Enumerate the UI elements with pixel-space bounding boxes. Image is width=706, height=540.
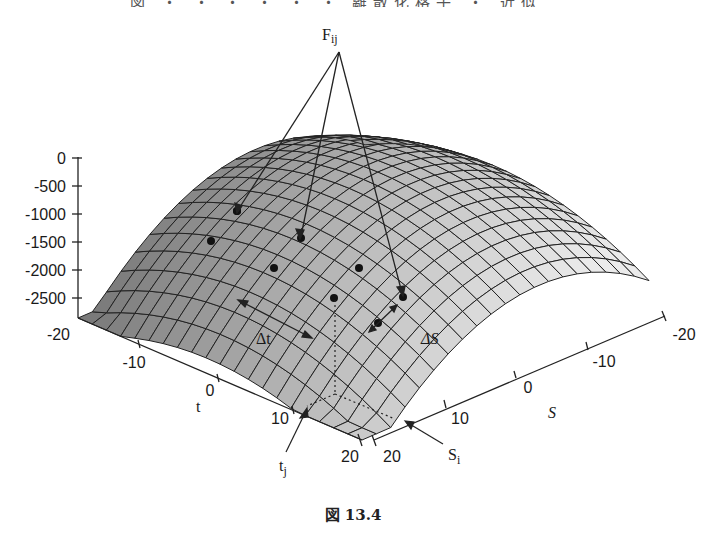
z-axis xyxy=(72,157,82,318)
s-tick-neg10: -10 xyxy=(592,353,615,370)
t-axis-label: t xyxy=(196,398,201,415)
tj-arrow xyxy=(286,408,308,452)
t-tick-neg10: -10 xyxy=(122,354,145,371)
si-arrow xyxy=(405,421,443,444)
delta-t-label: Δt xyxy=(256,330,271,347)
s-tick-0: 0 xyxy=(524,379,533,396)
z-tick-0: 0 xyxy=(57,150,66,167)
t-tick-0: 0 xyxy=(206,382,215,399)
z-tick-5: -2500 xyxy=(25,290,66,307)
z-tick-4: -2000 xyxy=(25,262,66,279)
t-tick-10: 10 xyxy=(271,410,289,427)
delta-s-label: ΔS xyxy=(420,330,438,347)
tj-label: tj xyxy=(279,457,287,478)
fij-label: Fij xyxy=(322,26,338,46)
z-tick-3: -1500 xyxy=(25,234,66,251)
t-tick-20: 20 xyxy=(341,448,359,465)
figure-caption: 図 13.4 xyxy=(0,503,706,524)
s-tick-20: 20 xyxy=(383,448,401,465)
z-tick-2: -1000 xyxy=(25,206,66,223)
surface-mesh xyxy=(78,135,649,440)
si-label: Si xyxy=(448,446,461,467)
s-tick-10: 10 xyxy=(451,410,469,427)
surface-plot: 0 -500 -1000 -1500 -2000 -2500 -20 -10 0… xyxy=(0,0,706,540)
z-tick-1: -500 xyxy=(34,178,66,195)
s-axis-label: S xyxy=(548,404,556,421)
s-tick-neg20: -20 xyxy=(672,326,695,343)
t-tick-neg20: -20 xyxy=(47,326,70,343)
